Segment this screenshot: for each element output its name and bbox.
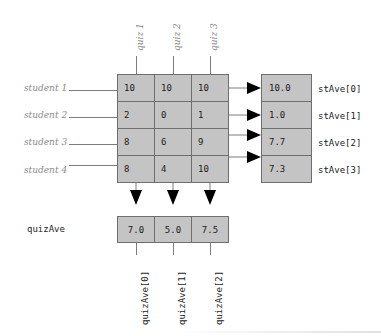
score-cell-r3c1: 4 [154,155,192,183]
column-average-arrow-2 [204,183,216,205]
score-cell-r3c0: 8 [117,155,155,183]
scan-edge-artifact [170,331,381,333]
quiz-average-label-1: quizAve[1] [177,271,187,325]
connector-quiz-3 [210,56,211,74]
row-average-arrow-0 [229,82,261,94]
connector-quiz-2 [173,56,174,74]
score-cell-r3c2: 10 [191,155,229,183]
column-header-quiz-2: quiz 2 [172,23,182,51]
score-cell-r2c1: 6 [154,128,192,156]
student-average-value-0: 10.0 [261,74,312,102]
student-average-label-2: stAve[2] [318,138,361,148]
student-average-value-3: 7.3 [261,155,312,183]
leader-line-student-4 [69,165,117,166]
column-average-arrow-1 [167,183,179,205]
row-average-arrow-1 [229,109,261,121]
quiz-average-value-0: 7.0 [117,216,155,243]
score-cell-r1c1: 0 [154,101,192,129]
quiz-average-label-2: quizAve[2] [214,271,224,325]
connector-quizave-2 [210,243,211,255]
row-header-student-1: student 1 [24,83,67,93]
quiz-average-label-0: quizAve[0] [140,271,150,325]
row-header-student-2: student 2 [24,110,67,120]
leader-line-student-3 [69,144,117,145]
row-average-arrow-2 [229,129,261,141]
column-header-quiz-3: quiz 3 [209,23,219,51]
connector-quizave-1 [173,243,174,255]
column-average-arrow-0 [130,183,142,205]
row-average-arrow-3 [229,151,261,163]
score-cell-r2c0: 8 [117,128,155,156]
quiz-average-row-label: quizAve [27,224,65,234]
connector-quizave-0 [136,243,137,255]
leader-line-student-2 [69,117,117,118]
score-cell-r2c2: 9 [191,128,229,156]
diagram-canvas: quiz 1 quiz 2 quiz 3 student 1 student 2… [0,0,381,336]
student-average-label-3: stAve[3] [318,165,361,175]
score-cell-r1c0: 2 [117,101,155,129]
score-cell-r1c2: 1 [191,101,229,129]
column-header-quiz-1: quiz 1 [135,23,145,51]
student-average-value-1: 1.0 [261,101,312,129]
student-average-label-1: stAve[1] [318,111,361,121]
row-header-student-4: student 4 [24,165,67,175]
score-cell-r0c2: 10 [191,74,229,102]
student-average-label-0: stAve[0] [318,84,361,94]
connector-quiz-1 [136,56,137,74]
row-header-student-3: student 3 [24,137,67,147]
score-cell-r0c1: 10 [154,74,192,102]
quiz-average-value-1: 5.0 [154,216,192,243]
quiz-average-value-2: 7.5 [191,216,229,243]
leader-line-student-1 [69,90,117,91]
score-cell-r0c0: 10 [117,74,155,102]
student-average-value-2: 7.7 [261,128,312,156]
